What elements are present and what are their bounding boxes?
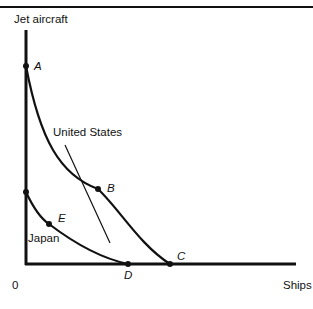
point-a: [23, 63, 29, 69]
japan-frontier-curve: [26, 192, 128, 264]
us-curve-label: United States: [53, 127, 122, 139]
diagram-graphics: [0, 0, 313, 309]
point-d: [125, 261, 131, 267]
point-japan-intercept: [23, 189, 29, 195]
point-b-label: B: [107, 183, 115, 195]
point-a-label: A: [34, 61, 42, 73]
x-axis-label: Ships: [283, 280, 312, 292]
point-c-label: C: [177, 251, 185, 263]
y-axis-label: Jet aircraft: [14, 14, 68, 26]
origin-label: 0: [12, 280, 18, 292]
point-c: [167, 261, 173, 267]
point-e: [46, 221, 52, 227]
point-e-label: E: [58, 213, 66, 225]
ppf-diagram: Jet aircraft Ships 0 United States Japan…: [0, 0, 313, 309]
japan-curve-label: Japan: [28, 233, 59, 245]
point-d-label: D: [124, 270, 132, 282]
point-b: [95, 186, 101, 192]
